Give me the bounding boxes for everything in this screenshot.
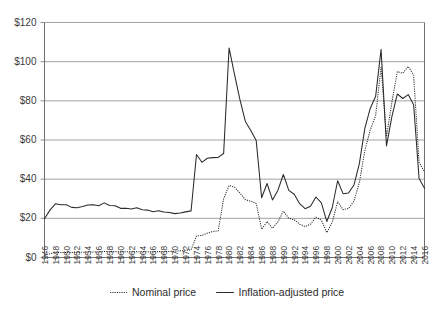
x-tick-label: 1986: [257, 246, 267, 265]
x-tick-label: 2000: [333, 246, 343, 265]
x-tick-label: 1996: [311, 246, 321, 265]
x-tick-label: 2004: [355, 246, 365, 265]
x-tick-label: 1952: [72, 246, 82, 265]
x-tick-label: 1972: [181, 246, 191, 265]
series-line-nominal-price: [45, 66, 425, 255]
y-tick-label: $120: [14, 17, 37, 28]
x-tick-label: 2006: [366, 246, 376, 265]
y-axis-tick-labels: $0$20$40$60$80$100$120: [14, 17, 44, 263]
x-tick-label: 1970: [170, 246, 180, 265]
y-tick-label: $80: [20, 95, 37, 106]
x-tick-label: 1954: [83, 246, 93, 265]
x-tick-label: 1962: [127, 246, 137, 265]
x-tick-label: 1950: [62, 246, 72, 265]
legend-label-nominal-price: Nominal price: [132, 286, 196, 298]
y-tick-label: $40: [20, 173, 37, 184]
x-tick-label: 1988: [268, 246, 278, 265]
x-tick-label: 2014: [409, 246, 419, 265]
y-tick-label: $100: [14, 56, 37, 67]
x-tick-label: 2010: [387, 246, 397, 265]
x-tick-label: 1978: [214, 246, 224, 265]
x-tick-label: 2008: [376, 246, 386, 265]
x-tick-label: 1992: [290, 246, 300, 265]
legend-label-inflation-adjusted-price: Inflation-adjusted price: [239, 286, 345, 298]
series-line-inflation-adjusted-price: [45, 48, 425, 222]
x-tick-label: 1990: [279, 246, 289, 265]
y-tick-label: $20: [20, 212, 37, 223]
x-tick-label: 1974: [192, 246, 202, 265]
x-axis-tick-labels: 1946194819501952195419561958196019621964…: [40, 246, 430, 265]
x-tick-label: 1998: [322, 246, 332, 265]
x-tick-label: 1960: [116, 246, 126, 265]
crude-oil-price-chart-figure: $0$20$40$60$80$100$120 19461948195019521…: [0, 0, 441, 322]
x-tick-label: 1968: [159, 246, 169, 265]
x-tick-label: 1994: [300, 246, 310, 265]
x-tick-label: 2002: [344, 246, 354, 265]
x-tick-label: 1984: [246, 246, 256, 265]
x-tick-label: 1966: [148, 246, 158, 265]
x-tick-label: 1980: [224, 246, 234, 265]
x-tick-label: 1964: [138, 246, 148, 265]
x-tick-label: 2012: [398, 246, 408, 265]
data-series-group: [45, 48, 425, 255]
x-tick-label: 2016: [420, 246, 430, 265]
y-tick-label: $60: [20, 134, 37, 145]
x-tick-label: 1948: [51, 246, 61, 265]
chart-legend: Nominal priceInflation-adjusted price: [110, 286, 344, 298]
x-tick-label: 1956: [94, 246, 104, 265]
x-tick-label: 1976: [203, 246, 213, 265]
x-tick-label: 1958: [105, 246, 115, 265]
x-tick-label: 1982: [235, 246, 245, 265]
y-tick-label: $0: [25, 252, 37, 263]
chart-canvas: $0$20$40$60$80$100$120 19461948195019521…: [0, 0, 441, 322]
